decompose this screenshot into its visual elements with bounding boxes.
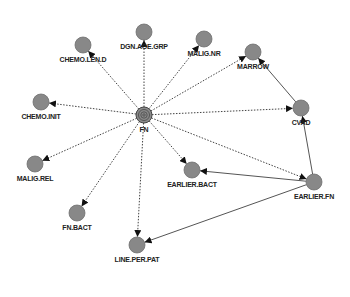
- node-label: MALIG.NR: [187, 50, 220, 57]
- node-marrow[interactable]: MARROW: [237, 44, 269, 70]
- node-label: CHEMO.INIT: [21, 113, 61, 120]
- edge-fn-to-chemo-init: [49, 103, 136, 114]
- edge-earlier-fn-to-line-per-pat: [145, 185, 307, 243]
- node-circle: [129, 237, 145, 253]
- nodes-layer: FNCHEMO.LEN.DDGN.AGE.GRPMALIG.NRMARROWCH…: [17, 24, 334, 263]
- node-circle: [293, 100, 309, 116]
- node-circle: [245, 44, 261, 60]
- node-label: MARROW: [237, 63, 269, 70]
- edge-fn-to-fn-bact: [82, 122, 140, 207]
- node-circle: [196, 31, 212, 47]
- node-line-per-pat[interactable]: LINE.PER.PAT: [115, 237, 161, 263]
- node-fn-bact[interactable]: FN.BACT: [62, 205, 92, 231]
- node-label: EARLIER.FN: [294, 193, 334, 200]
- edge-fn-to-malig-rel: [42, 118, 136, 160]
- node-circle: [69, 205, 85, 221]
- network-diagram: FNCHEMO.LEN.DDGN.AGE.GRPMALIG.NRMARROWCH…: [0, 0, 350, 297]
- node-label: FN: [140, 126, 149, 133]
- edge-fn-to-earlier-bact: [149, 121, 186, 164]
- node-label: DGN.AGE.GRP: [120, 43, 168, 50]
- edge-fn-to-line-per-pat: [137, 123, 143, 237]
- node-earlier-bact[interactable]: EARLIER.BACT: [167, 162, 218, 188]
- node-dgn-age-grp[interactable]: DGN.AGE.GRP: [120, 24, 168, 50]
- edge-fn-to-cvad: [152, 108, 293, 114]
- node-label: EARLIER.BACT: [167, 181, 218, 188]
- node-label: MALIG.REL: [17, 175, 55, 182]
- node-malig-nr[interactable]: MALIG.NR: [187, 31, 220, 57]
- node-malig-rel[interactable]: MALIG.REL: [17, 156, 55, 182]
- node-label: CVAD: [292, 119, 311, 126]
- node-circle: [184, 162, 200, 178]
- node-circle: [136, 24, 152, 40]
- node-label: CHEMO.LEN.D: [60, 56, 107, 63]
- node-label: LINE.PER.PAT: [115, 256, 161, 263]
- node-circle: [75, 37, 91, 53]
- edge-fn-to-marrow: [151, 56, 246, 111]
- node-chemo-len-d[interactable]: CHEMO.LEN.D: [60, 37, 107, 63]
- edge-earlier-fn-to-earlier-bact: [200, 171, 306, 181]
- node-label: FN.BACT: [62, 224, 92, 231]
- edge-fn-to-earlier-fn: [151, 118, 306, 179]
- node-circle: [27, 156, 43, 172]
- node-chemo-init[interactable]: CHEMO.INIT: [21, 94, 61, 120]
- node-circle: [306, 174, 322, 190]
- node-cvad[interactable]: CVAD: [292, 100, 311, 126]
- node-fn[interactable]: FN: [136, 107, 152, 133]
- node-circle: [33, 94, 49, 110]
